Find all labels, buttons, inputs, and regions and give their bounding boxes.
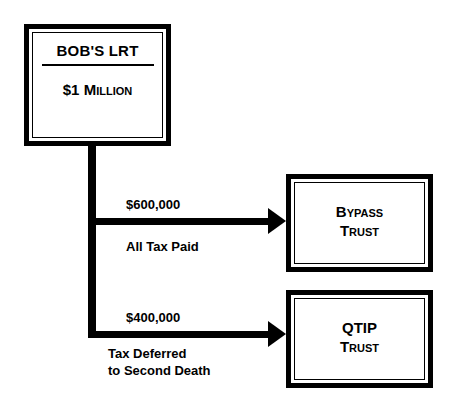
edge-label-bypass-amount: $600,000 [126, 196, 180, 213]
arrow-head-icon-qtip [268, 321, 286, 347]
node-bypass-trust-inner: Bypass Trust [294, 182, 425, 264]
node-bobs-lrt-amount: $1 Million [63, 81, 132, 98]
qtip-trust-smallcaps: rust [349, 338, 379, 355]
edge-label-qtip-note-line1: Tax Deferred [108, 345, 211, 362]
amount-prefix: $1 M [63, 81, 96, 98]
node-bobs-lrt-title: BOB'S LRT [56, 43, 138, 60]
qtip-trust-initial: T [340, 338, 349, 355]
bypass-initial: B [336, 203, 347, 220]
bypass-trust-smallcaps: rust [349, 222, 379, 239]
node-qtip-trust-line1: QTIP [342, 318, 377, 337]
node-bobs-lrt[interactable]: BOB'S LRT $1 Million [24, 24, 171, 146]
edge-label-qtip-note: Tax Deferred to Second Death [108, 345, 211, 379]
amount-smallcaps: illion [96, 81, 132, 98]
connector-trunk [88, 144, 96, 338]
arrow-head-icon-bypass [268, 208, 286, 234]
node-bypass-trust[interactable]: Bypass Trust [286, 174, 433, 272]
connector-branch-qtip [88, 331, 274, 338]
edge-label-bypass-note: All Tax Paid [126, 238, 199, 255]
bypass-smallcaps: ypass [347, 203, 383, 220]
node-qtip-trust-inner: QTIP Trust [294, 298, 425, 380]
bypass-trust-initial: T [340, 222, 349, 239]
connector-branch-bypass [88, 218, 274, 225]
edge-label-qtip-amount: $400,000 [126, 309, 180, 326]
node-qtip-trust[interactable]: QTIP Trust [286, 290, 433, 388]
node-qtip-trust-line2: Trust [340, 337, 379, 356]
node-bypass-trust-line1: Bypass [336, 202, 383, 221]
title-underline-rule [42, 64, 154, 66]
node-bobs-lrt-inner: BOB'S LRT $1 Million [32, 32, 163, 138]
edge-label-qtip-note-line2: to Second Death [108, 362, 211, 379]
estate-flow-diagram: BOB'S LRT $1 Million $600,000 All Tax Pa… [0, 0, 449, 417]
node-bypass-trust-line2: Trust [340, 221, 379, 240]
